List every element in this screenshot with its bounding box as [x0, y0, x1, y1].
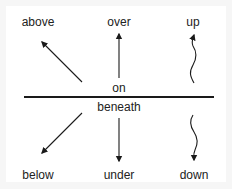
wavy-arrow-down-icon — [190, 115, 197, 160]
label-on: on — [112, 82, 125, 94]
label-below: below — [22, 169, 53, 181]
arrow-above-icon — [42, 42, 82, 82]
arrow-below-icon — [42, 113, 82, 153]
label-over: over — [107, 16, 130, 28]
label-down: down — [180, 169, 209, 181]
label-under: under — [104, 169, 135, 181]
label-up: up — [186, 16, 199, 28]
wavy-arrow-up-icon — [190, 35, 196, 83]
label-beneath: beneath — [97, 101, 140, 113]
label-above: above — [22, 16, 55, 28]
